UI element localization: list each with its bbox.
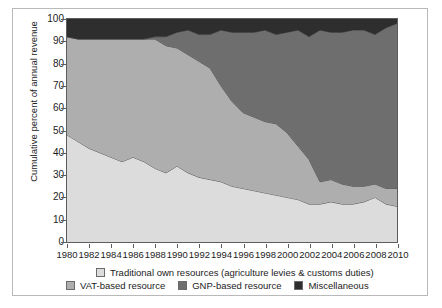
legend-item-gnp-based-resource: GNP-based resource [178, 280, 281, 291]
legend-item-vat-based-resource: VAT-based resource [66, 280, 165, 291]
x-tick-mark [354, 244, 355, 248]
x-tick-mark [376, 244, 377, 248]
x-tick-label: 1998 [255, 249, 276, 260]
x-tick-label: 2002 [299, 249, 320, 260]
x-tick-mark [111, 244, 112, 248]
x-tick-label: 1984 [101, 249, 122, 260]
x-tick-mark [199, 244, 200, 248]
x-tick-label: 1986 [123, 249, 144, 260]
chart-legend: Traditional own resources (agriculture l… [66, 266, 416, 292]
x-tick-label: 1980 [56, 249, 77, 260]
x-tick-mark [67, 244, 68, 248]
x-tick-label: 2010 [387, 249, 408, 260]
legend-row-1: Traditional own resources (agriculture l… [66, 266, 416, 279]
x-tick-mark [266, 244, 267, 248]
legend-row-2: VAT-based resource GNP-based resource Mi… [66, 279, 416, 292]
x-tick-label: 1982 [78, 249, 99, 260]
x-tick-mark [89, 244, 90, 248]
x-tick-mark [133, 244, 134, 248]
x-tick-mark [221, 244, 222, 248]
x-tick-mark [288, 244, 289, 248]
x-tick-mark [398, 244, 399, 248]
x-tick-mark [177, 244, 178, 248]
x-tick-label: 2008 [365, 249, 386, 260]
stacked-area-chart [67, 19, 397, 242]
legend-label-traditional: Traditional own resources (agriculture l… [110, 267, 374, 278]
x-tick-mark [244, 244, 245, 248]
legend-label-miscellaneous: Miscellaneous [308, 280, 368, 291]
x-tick-label: 1990 [167, 249, 188, 260]
legend-label-vat: VAT-based resource [80, 280, 165, 291]
legend-swatch-icon-vat [66, 281, 75, 290]
legend-label-gnp: GNP-based resource [192, 280, 281, 291]
x-tick-mark [332, 244, 333, 248]
x-tick-mark [310, 244, 311, 248]
x-tick-mark [155, 244, 156, 248]
legend-swatch-icon-gnp [178, 281, 187, 290]
x-axis-tick-labels: 1980198219841986198819901992199419961998… [66, 249, 398, 262]
legend-item-miscellaneous: Miscellaneous [294, 280, 368, 291]
plot-area [66, 18, 398, 243]
legend-swatch-icon-miscellaneous [294, 281, 303, 290]
figure-container: Cumulative percent of annual revenue 010… [0, 0, 442, 308]
x-tick-label: 1992 [189, 249, 210, 260]
x-tick-label: 2004 [321, 249, 342, 260]
x-tick-label: 2000 [277, 249, 298, 260]
x-tick-label: 2006 [343, 249, 364, 260]
x-tick-label: 1988 [145, 249, 166, 260]
legend-item-traditional-own-resources: Traditional own resources (agriculture l… [96, 267, 374, 278]
x-tick-label: 1996 [233, 249, 254, 260]
x-tick-label: 1994 [211, 249, 232, 260]
legend-swatch-icon-traditional [96, 268, 105, 277]
